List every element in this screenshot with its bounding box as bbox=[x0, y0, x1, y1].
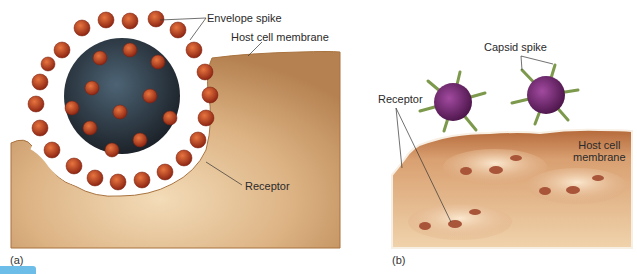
capsid-virus-2 bbox=[512, 65, 578, 124]
blue-tab-marker bbox=[0, 266, 36, 274]
panel-label-a: (a) bbox=[10, 254, 23, 266]
label-receptor-a: Receptor bbox=[245, 180, 290, 192]
panel-label-b: (b) bbox=[392, 254, 405, 266]
label-membrane-line2: membrane bbox=[573, 151, 626, 163]
capsid-virus-1 bbox=[420, 72, 485, 131]
panel-a-illustration bbox=[11, 11, 340, 248]
label-capsid-spike: Capsid spike bbox=[484, 41, 547, 53]
label-host-cell-membrane-a: Host cell membrane bbox=[231, 31, 329, 43]
label-host-cell-membrane-b: Host cell membrane bbox=[573, 139, 626, 163]
label-envelope-spike: Envelope spike bbox=[207, 12, 282, 24]
label-receptor-b: Receptor bbox=[378, 93, 423, 105]
label-host-cell-line1: Host cell bbox=[578, 139, 620, 151]
